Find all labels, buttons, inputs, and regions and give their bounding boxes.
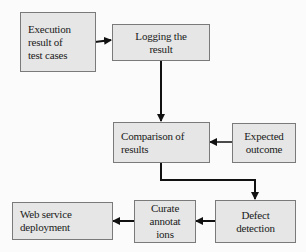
edge-execution-to-logging [95, 40, 111, 42]
node-text-line: result [149, 43, 172, 56]
node-defect-detection: Defect detection [215, 200, 296, 243]
node-text-line: Comparison of [121, 130, 184, 143]
node-text-line: test cases [28, 49, 67, 62]
node-text-line: ions [156, 228, 174, 241]
node-logging-result: Logging the result [112, 24, 210, 61]
node-text-line: Execution [28, 23, 71, 36]
node-text-line: Defect [241, 209, 269, 222]
edge-comparison-to-defect [161, 162, 255, 199]
node-expected-outcome: Expected outcome [232, 123, 296, 163]
node-text-line: detection [236, 222, 275, 235]
node-text-line: deployment [20, 221, 70, 234]
node-web-service-deployment: Web service deployment [12, 202, 113, 240]
node-text-line: Logging the [135, 30, 186, 43]
node-comparison-of-results: Comparison of results [113, 122, 210, 163]
node-text-line: Web service [20, 208, 72, 221]
node-text-line: annotat [150, 215, 181, 228]
node-text-line: Curate [151, 202, 179, 215]
node-text-line: outcome [246, 143, 282, 156]
node-text-line: Expected [244, 130, 283, 143]
node-curate-annotations: Curate annotat ions [134, 200, 196, 243]
node-execution-result: Execution result of test cases [20, 12, 96, 72]
node-text-line: result of [28, 36, 63, 49]
flowchart-canvas: Execution result of test cases Logging t… [0, 0, 306, 252]
node-text-line: results [121, 143, 148, 156]
